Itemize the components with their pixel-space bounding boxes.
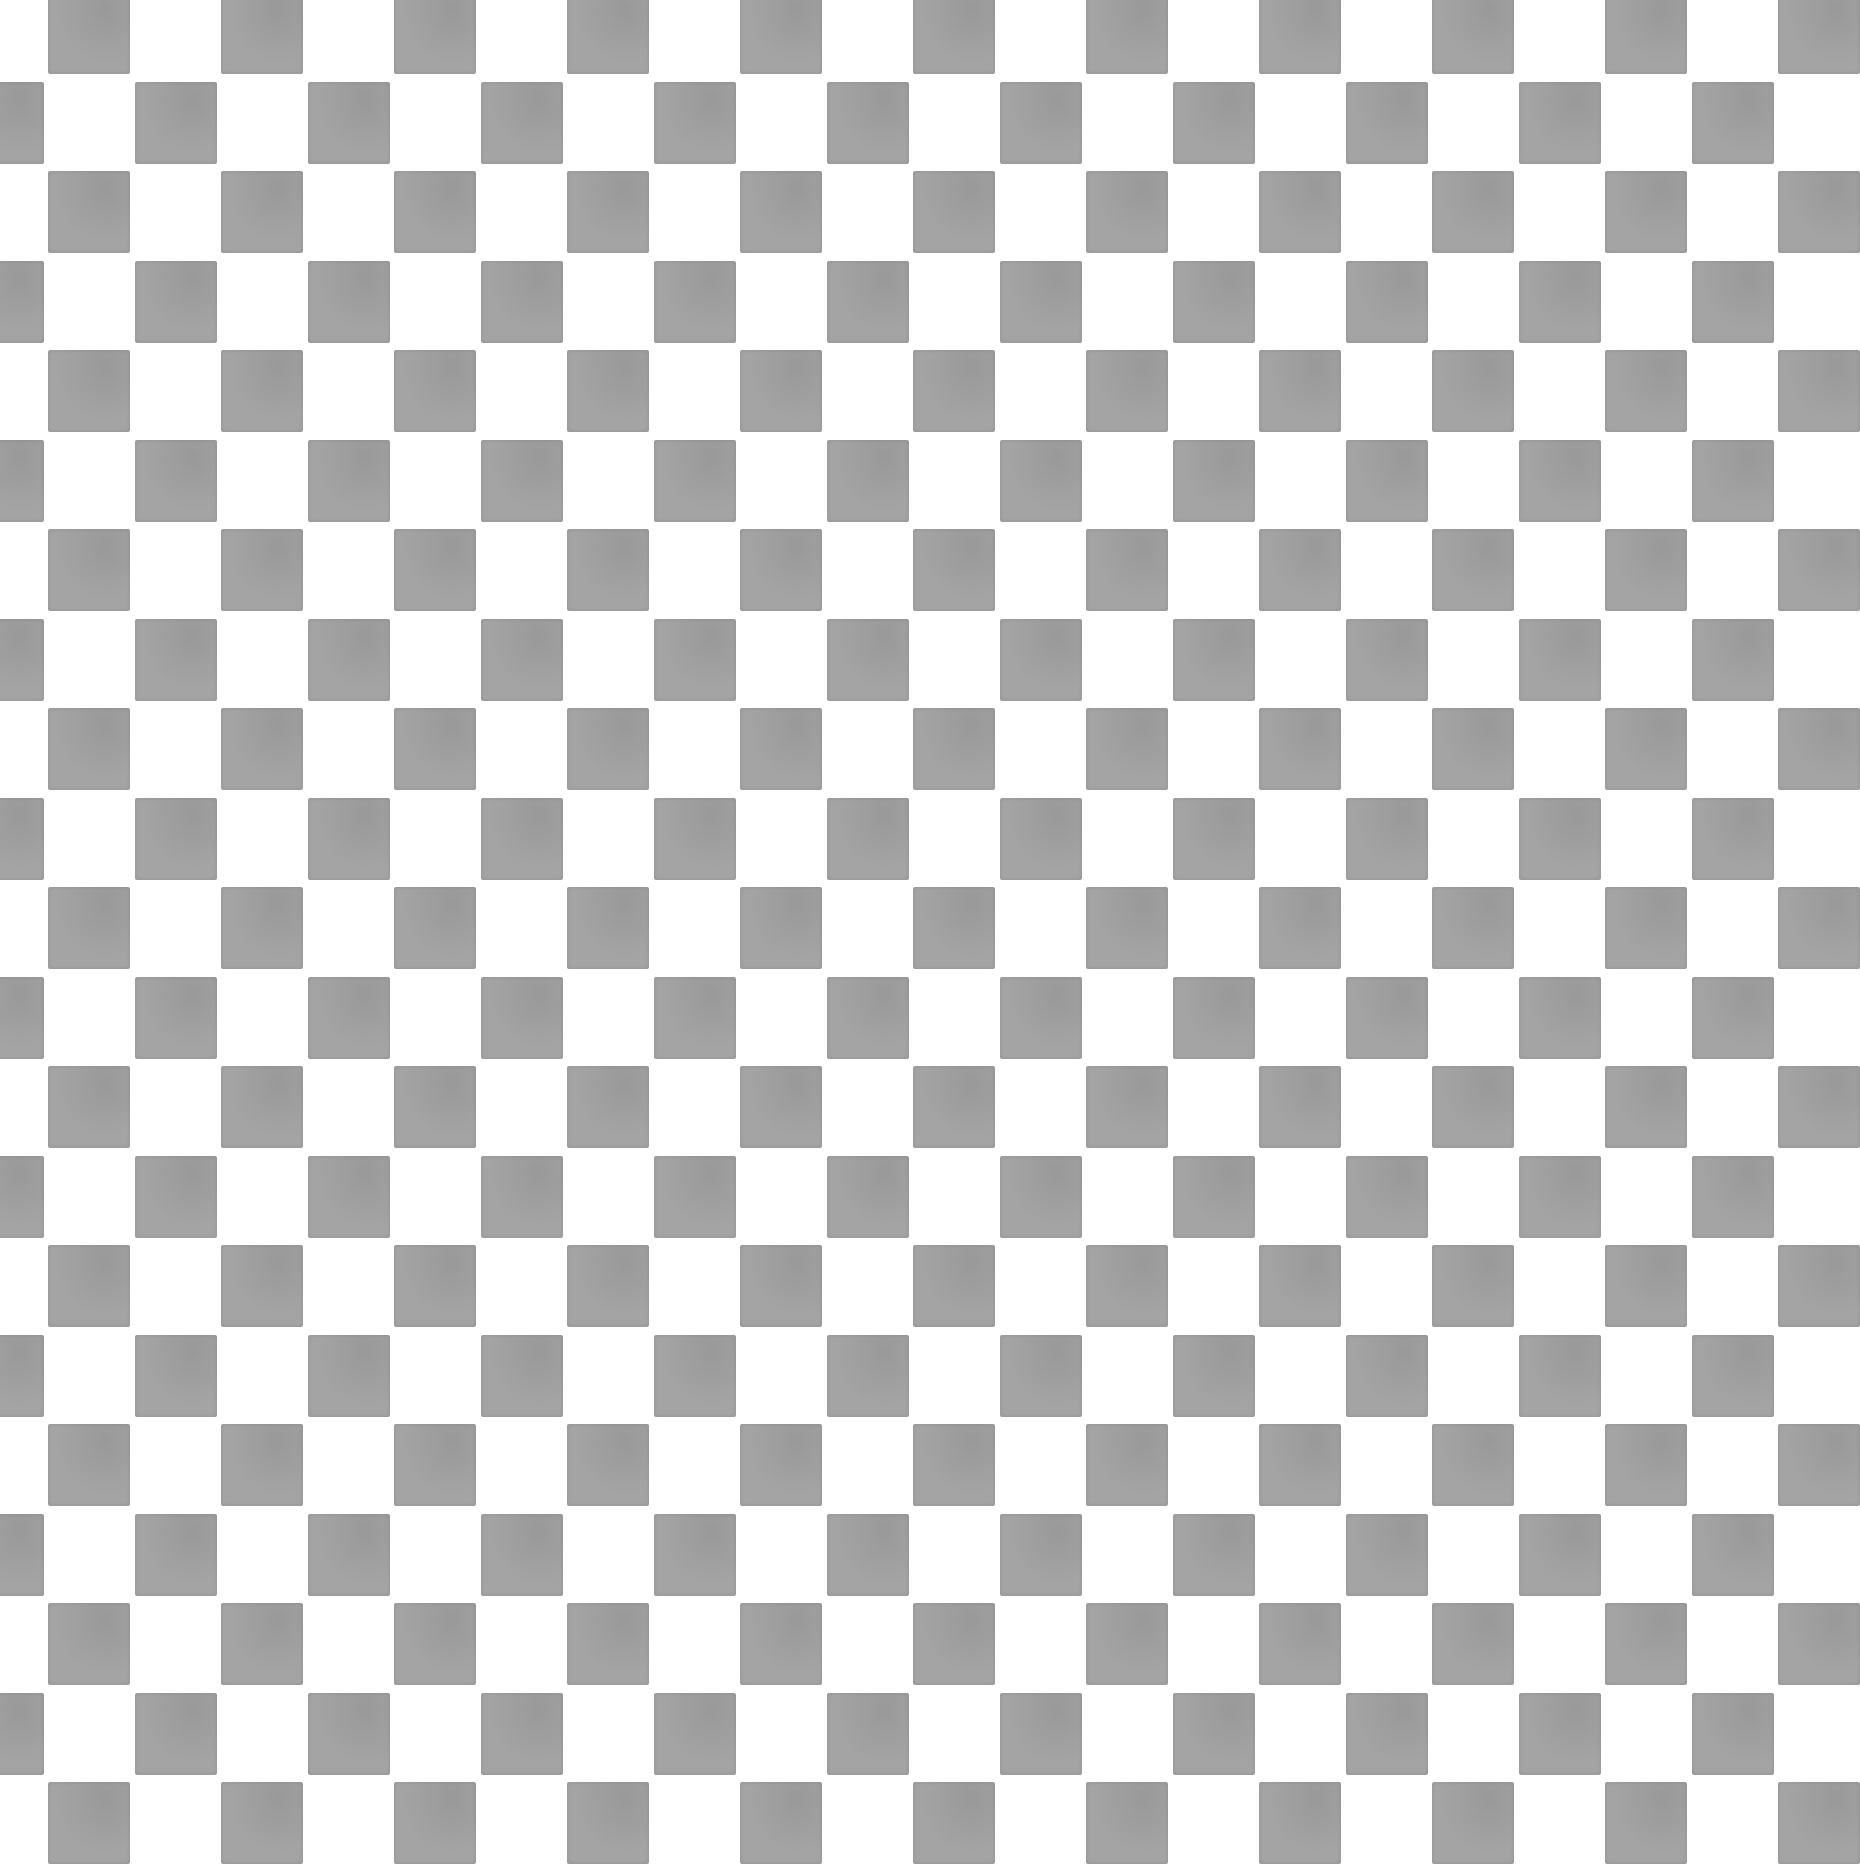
dark-square: [221, 1424, 303, 1506]
dark-square: [567, 1782, 649, 1864]
dark-square: [1605, 1245, 1687, 1327]
dark-square: [1259, 1424, 1341, 1506]
dark-square: [1778, 708, 1860, 790]
dark-square: [1778, 529, 1860, 611]
dark-square: [1259, 1245, 1341, 1327]
dark-square: [481, 1514, 563, 1596]
dark-square: [1432, 1603, 1514, 1685]
dark-square: [1000, 1693, 1082, 1775]
dark-square: [135, 1156, 217, 1238]
dark-square: [308, 798, 390, 880]
dark-square: [1086, 887, 1168, 969]
dark-square: [1173, 1693, 1255, 1775]
dark-square: [913, 350, 995, 432]
dark-square: [0, 261, 44, 343]
dark-square: [1000, 798, 1082, 880]
dark-square: [1259, 1603, 1341, 1685]
dark-square: [481, 1693, 563, 1775]
dark-square: [654, 1693, 736, 1775]
dark-square: [740, 1066, 822, 1148]
dark-square: [135, 1693, 217, 1775]
dark-square: [1432, 529, 1514, 611]
dark-square: [1086, 1782, 1168, 1864]
dark-square: [48, 350, 130, 432]
dark-square: [1259, 1782, 1341, 1864]
dark-square: [913, 887, 995, 969]
dark-square: [394, 1782, 476, 1864]
dark-square: [827, 619, 909, 701]
dark-square: [135, 82, 217, 164]
dark-square: [1173, 1156, 1255, 1238]
dark-square: [1692, 977, 1774, 1059]
dark-square: [221, 708, 303, 790]
dark-square: [567, 1424, 649, 1506]
dark-square: [1259, 171, 1341, 253]
dark-square: [740, 1782, 822, 1864]
dark-square: [654, 798, 736, 880]
dark-square: [913, 171, 995, 253]
dark-square: [308, 261, 390, 343]
dark-square: [740, 1245, 822, 1327]
dark-square: [1778, 1782, 1860, 1864]
dark-square: [567, 1245, 649, 1327]
dark-square: [740, 171, 822, 253]
dark-square: [1346, 1335, 1428, 1417]
dark-square: [394, 1603, 476, 1685]
dark-square: [394, 171, 476, 253]
dark-square: [394, 1066, 476, 1148]
dark-square: [1432, 708, 1514, 790]
dark-square: [827, 1156, 909, 1238]
dark-square: [1692, 440, 1774, 522]
dark-square: [1692, 82, 1774, 164]
dark-square: [308, 1693, 390, 1775]
dark-square: [394, 350, 476, 432]
dark-square: [1000, 261, 1082, 343]
dark-square: [827, 440, 909, 522]
dark-square: [48, 1782, 130, 1864]
dark-square: [135, 977, 217, 1059]
dark-square: [394, 1245, 476, 1327]
dark-square: [913, 1066, 995, 1148]
dark-square: [1173, 977, 1255, 1059]
dark-square: [308, 440, 390, 522]
dark-square: [1605, 1424, 1687, 1506]
dark-square: [48, 529, 130, 611]
dark-square: [1432, 1424, 1514, 1506]
dark-square: [827, 82, 909, 164]
dark-square: [913, 708, 995, 790]
dark-square: [0, 798, 44, 880]
dark-square: [827, 261, 909, 343]
dark-square: [0, 82, 44, 164]
dark-square: [48, 1424, 130, 1506]
dark-square: [308, 1335, 390, 1417]
dark-square: [1432, 171, 1514, 253]
dark-square: [135, 1335, 217, 1417]
dark-square: [1000, 1514, 1082, 1596]
dark-square: [394, 1424, 476, 1506]
dark-square: [1519, 798, 1601, 880]
dark-square: [1000, 977, 1082, 1059]
dark-square: [1173, 798, 1255, 880]
dark-square: [481, 798, 563, 880]
dark-square: [1432, 1066, 1514, 1148]
dark-square: [1605, 529, 1687, 611]
dark-square: [1086, 529, 1168, 611]
dark-square: [913, 1603, 995, 1685]
dark-square: [1519, 1156, 1601, 1238]
dark-square: [1692, 1156, 1774, 1238]
dark-square: [1346, 1693, 1428, 1775]
dark-square: [827, 1335, 909, 1417]
dark-square: [1605, 0, 1687, 74]
dark-square: [1692, 1335, 1774, 1417]
dark-square: [1432, 350, 1514, 432]
dark-square: [394, 708, 476, 790]
dark-square: [1000, 440, 1082, 522]
dark-square: [654, 1514, 736, 1596]
dark-square: [1778, 1066, 1860, 1148]
dark-square: [1519, 1514, 1601, 1596]
dark-square: [221, 887, 303, 969]
dark-square: [481, 977, 563, 1059]
dark-square: [1173, 440, 1255, 522]
dark-square: [1086, 1603, 1168, 1685]
